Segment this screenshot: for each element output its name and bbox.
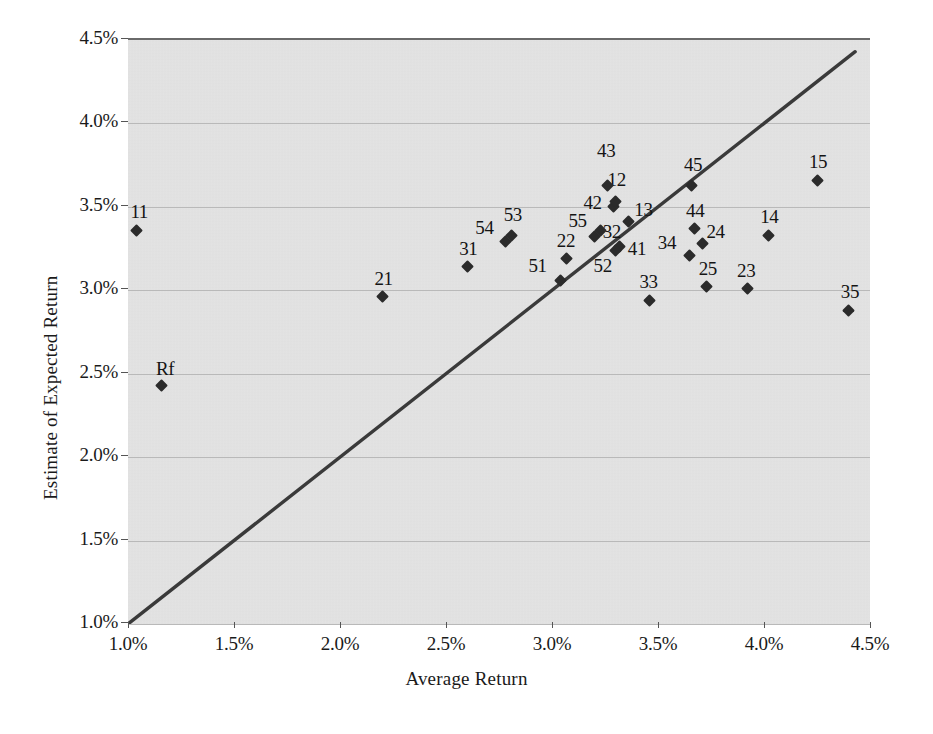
gridline [128,374,870,375]
gridline [128,290,870,291]
gridline [128,207,870,208]
y-tick-mark [121,205,128,206]
gridline [128,457,870,458]
gridline [128,541,870,542]
y-tick-mark [121,38,128,39]
y-tick-label: 3.5% [46,195,118,214]
data-point-marker[interactable] [688,222,701,235]
data-point-marker[interactable] [156,379,169,392]
x-tick-label: 3.5% [623,634,693,653]
data-point-label: 51 [528,256,546,275]
x-tick-label: 2.0% [305,634,375,653]
data-point-marker[interactable] [842,304,855,317]
gridline [128,123,870,124]
x-tick-mark [552,622,553,628]
data-point-marker[interactable] [643,294,656,307]
data-point-label: 22 [557,231,575,250]
x-tick-label: 1.0% [93,634,163,653]
data-point-marker[interactable] [762,229,775,242]
data-point-label: 55 [568,211,586,230]
data-point-marker[interactable] [811,174,824,187]
gridline [128,624,870,625]
data-point-label: 45 [684,155,702,174]
y-tick-mark [121,372,128,373]
data-point-marker[interactable] [622,215,635,228]
x-tick-mark [446,622,447,628]
data-point-label: 11 [130,202,148,221]
data-point-marker[interactable] [130,224,143,237]
x-tick-mark [764,622,765,628]
data-point-label: 24 [707,222,725,241]
y-tick-label: 4.5% [46,28,118,47]
x-tick-label: 2.5% [411,634,481,653]
y-tick-mark [121,539,128,540]
data-point-label: Rf [156,359,174,378]
data-point-marker[interactable] [461,261,474,274]
data-point-label: 53 [504,205,522,224]
data-point-label: 42 [583,193,601,212]
plot-area: Rf11213154532251553242124313415233454424… [128,38,870,624]
scatter-chart-figure: Rf11213154532251553242124313415233454424… [0,0,933,734]
x-tick-label: 4.0% [729,634,799,653]
y-tick-label: 4.0% [46,111,118,130]
x-tick-mark [340,622,341,628]
data-point-marker[interactable] [560,252,573,265]
data-point-label: 21 [374,269,392,288]
data-point-marker[interactable] [376,291,389,304]
data-point-label: 32 [603,222,621,241]
x-axis-title: Average Return [0,668,933,690]
y-tick-mark [121,288,128,289]
data-point-label: 13 [634,200,652,219]
data-point-label: 44 [686,201,704,220]
x-tick-label: 1.5% [199,634,269,653]
data-point-label: 41 [628,239,646,258]
data-point-label: 25 [699,259,717,278]
data-point-label: 35 [841,282,859,301]
data-point-label: 23 [737,261,755,280]
data-point-label: 14 [760,207,778,226]
data-point-marker[interactable] [741,282,754,295]
x-tick-mark [128,622,129,628]
data-point-label: 34 [658,233,676,252]
data-point-marker[interactable] [700,281,713,294]
data-point-marker[interactable] [683,249,696,262]
data-point-label: 54 [475,218,493,237]
plot-texture [128,40,870,624]
data-point-marker[interactable] [554,274,567,287]
x-tick-mark [234,622,235,628]
x-tick-label: 3.0% [517,634,587,653]
x-tick-mark [658,622,659,628]
y-axis-title: Estimate of Expected Return [40,276,62,500]
y-tick-mark [121,622,128,623]
data-point-label: 33 [640,272,658,291]
y-tick-label: 1.0% [46,612,118,631]
y-tick-mark [121,121,128,122]
x-tick-mark [870,622,871,628]
y-tick-label: 1.5% [46,529,118,548]
reference-line [128,40,870,624]
y-tick-mark [121,455,128,456]
data-point-label: 52 [594,256,612,275]
x-tick-label: 4.5% [835,634,905,653]
data-point-marker[interactable] [686,179,699,192]
data-point-label: 31 [459,239,477,258]
data-point-label: 15 [809,152,827,171]
data-point-label: 43 [597,141,615,160]
